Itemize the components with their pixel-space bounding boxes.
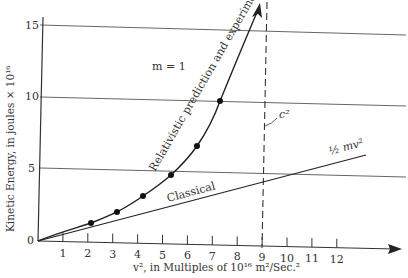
classical-formula-label: ½ mv²	[327, 136, 364, 158]
gridline-10	[40, 97, 406, 106]
x-tick-label: 4	[134, 248, 141, 261]
mass-annotation: m = 1	[152, 60, 186, 73]
data-point	[168, 172, 174, 178]
x-tick-label: 2	[84, 247, 91, 260]
y-axis	[38, 17, 43, 241]
c-squared-label: c²	[279, 108, 290, 121]
data-point	[194, 143, 200, 149]
y-axis-title: Kinetic Energy, in joules × 10¹⁶	[4, 65, 16, 232]
gridline-5	[40, 168, 406, 177]
kinetic-energy-chart: 123456789101112 15 10 5 0 c² Classical ½…	[0, 0, 408, 278]
x-ticks	[63, 233, 337, 248]
x-tick-label: 11	[305, 252, 319, 265]
relativistic-label: Relativistic prediction and experiment	[146, 0, 265, 173]
x-tick-label: 5	[159, 249, 166, 262]
data-point	[114, 209, 120, 215]
x-tick-label: 3	[109, 248, 116, 261]
data-point	[88, 220, 94, 226]
y-tick-label-15: 15	[25, 19, 39, 32]
x-axis	[38, 241, 395, 249]
x-axis-title: v², in Multiples of 10¹⁶ m²/Sec.²	[132, 261, 300, 273]
c-squared-asymptote	[262, 2, 267, 248]
data-point	[217, 98, 223, 104]
x-tick-label: 1	[59, 247, 66, 260]
x-tick-label: 12	[330, 253, 344, 266]
y-tick-label-0: 0	[27, 234, 34, 247]
y-tick-label-10: 10	[25, 90, 39, 103]
data-point	[140, 193, 146, 199]
x-axis-arrow-icon	[388, 244, 402, 254]
classical-line	[38, 155, 366, 241]
c-squared-pointer	[265, 118, 277, 126]
y-tick-label-5: 5	[28, 162, 35, 175]
